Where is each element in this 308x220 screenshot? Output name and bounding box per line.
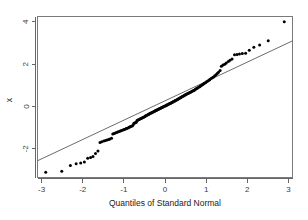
data-point xyxy=(248,49,251,52)
data-point xyxy=(110,137,113,140)
y-tick-label: 4 xyxy=(21,19,30,24)
x-tick-label: -1 xyxy=(120,185,128,194)
data-point xyxy=(83,161,86,164)
x-tick-label: -3 xyxy=(38,185,46,194)
y-tick-label: 2 xyxy=(22,61,31,66)
data-point xyxy=(219,69,222,72)
data-point xyxy=(283,20,286,23)
data-point xyxy=(60,170,63,173)
data-point xyxy=(244,52,247,55)
data-point xyxy=(231,58,234,61)
data-point xyxy=(94,152,97,155)
data-point xyxy=(241,52,244,55)
qq-plot-canvas: -3-2-10123 -2024 Quantiles of Standard N… xyxy=(0,0,308,220)
data-point xyxy=(96,150,99,153)
data-point xyxy=(75,162,78,165)
data-point xyxy=(44,171,47,174)
data-point xyxy=(79,161,82,164)
x-tick-label: 3 xyxy=(286,185,291,194)
data-point xyxy=(252,46,255,49)
data-point xyxy=(238,53,241,56)
x-tick-label: 0 xyxy=(163,185,168,194)
qq-plot-figure: -3-2-10123 -2024 Quantiles of Standard N… xyxy=(0,0,308,220)
data-point xyxy=(267,39,270,42)
data-point xyxy=(86,157,89,160)
x-axis-title: Quantiles of Standard Normal xyxy=(109,198,221,208)
data-point xyxy=(258,44,261,47)
x-tick-label: 1 xyxy=(204,185,209,194)
y-tick-label: -2 xyxy=(22,145,31,153)
data-point xyxy=(92,155,95,158)
x-tick-label: -2 xyxy=(79,185,87,194)
y-tick-label: 0 xyxy=(22,104,31,109)
data-point xyxy=(69,164,72,167)
x-tick-label: 2 xyxy=(245,185,250,194)
